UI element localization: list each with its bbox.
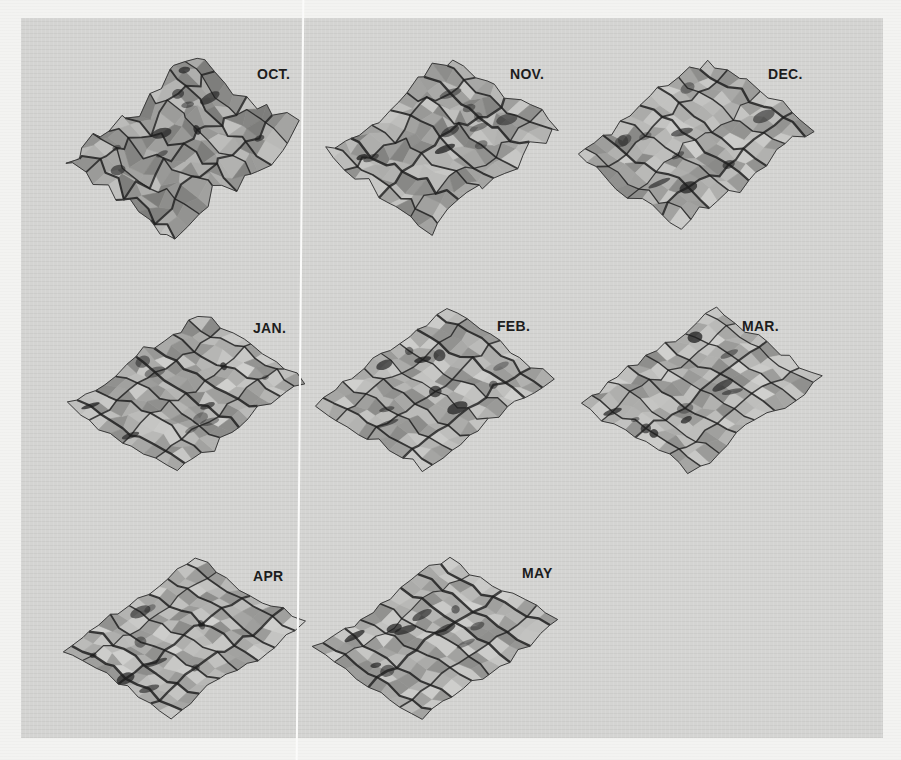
month-label-mar: MAR. bbox=[742, 318, 779, 334]
month-label-apr: APR bbox=[253, 568, 283, 584]
terrain-surface-graphic bbox=[62, 55, 302, 240]
terrain-surface-graphic bbox=[577, 305, 827, 475]
month-label-may: MAY bbox=[522, 565, 553, 581]
month-label-feb: FEB. bbox=[497, 318, 530, 334]
month-label-nov: NOV. bbox=[510, 66, 544, 82]
month-label-jan: JAN. bbox=[253, 320, 286, 336]
month-label-dec: DEC. bbox=[768, 66, 803, 82]
surface-plot-oct bbox=[62, 55, 302, 240]
surface-plot-mar bbox=[577, 305, 827, 475]
month-label-oct: OCT. bbox=[257, 66, 290, 82]
